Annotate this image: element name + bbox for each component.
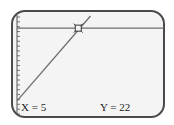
trace-cursor-corner xyxy=(74,31,76,33)
trace-cursor-icon xyxy=(75,25,81,31)
y-value-readout: Y = 22 xyxy=(100,101,130,113)
trace-cursor-corner xyxy=(81,31,83,33)
trace-cursor-corner xyxy=(74,24,76,26)
x-value-readout: X = 5 xyxy=(21,101,46,113)
